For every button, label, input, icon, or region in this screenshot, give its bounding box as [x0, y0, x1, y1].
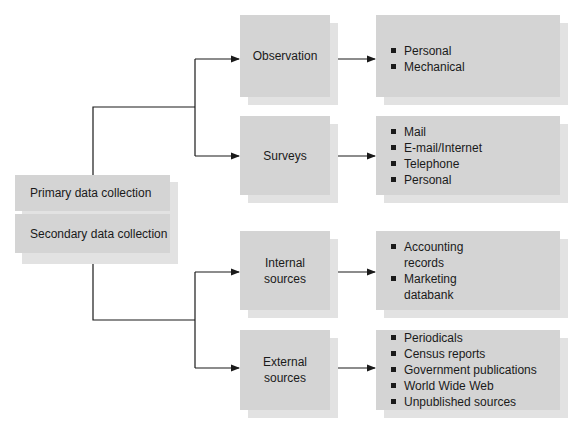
primary-data-collection-box: Primary data collection: [15, 175, 170, 211]
list-item: Telephone: [391, 156, 482, 172]
list-item: Mechanical: [391, 59, 465, 75]
observation-items-list: Personal Mechanical: [391, 43, 465, 75]
list-item: E-mail/Internet: [391, 140, 482, 156]
surveys-items-list: Mail E-mail/Internet Telephone Personal: [391, 124, 482, 188]
internal-sources-box: Internal sources: [240, 231, 330, 310]
list-item: Personal: [391, 43, 465, 59]
list-item: Government publications: [391, 362, 537, 378]
list-item: Personal: [391, 172, 482, 188]
list-item: Mail: [391, 124, 482, 140]
observation-label: Observation: [240, 15, 330, 97]
list-item: Accounting records: [391, 239, 471, 271]
observation-box: Observation: [240, 15, 330, 97]
internal-items-list: Accounting records Marketing databank: [391, 239, 471, 303]
secondary-data-collection-label: Secondary data collection: [15, 214, 167, 253]
list-item: Census reports: [391, 346, 537, 362]
secondary-data-collection-box: Secondary data collection: [15, 214, 170, 253]
primary-data-collection-label: Primary data collection: [15, 175, 151, 211]
surveys-label: Surveys: [240, 116, 330, 195]
list-item: Marketing databank: [391, 271, 471, 303]
list-item: World Wide Web: [391, 378, 537, 394]
surveys-items-box: Mail E-mail/Internet Telephone Personal: [376, 116, 560, 195]
external-items-list: Periodicals Census reports Government pu…: [391, 330, 537, 410]
internal-items-box: Accounting records Marketing databank: [376, 231, 560, 310]
observation-items-box: Personal Mechanical: [376, 15, 560, 97]
external-sources-label: External sources: [240, 330, 330, 410]
surveys-box: Surveys: [240, 116, 330, 195]
list-item: Periodicals: [391, 330, 537, 346]
external-sources-box: External sources: [240, 330, 330, 410]
list-item: Unpublished sources: [391, 394, 537, 410]
internal-sources-label: Internal sources: [240, 231, 330, 310]
external-items-box: Periodicals Census reports Government pu…: [376, 330, 560, 410]
